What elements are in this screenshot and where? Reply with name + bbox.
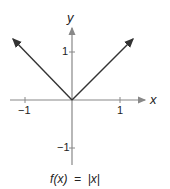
function-caption: f(x) = |x|	[0, 172, 150, 186]
plot-area	[0, 0, 170, 189]
y-axis-label: y	[67, 10, 74, 25]
ytick-1: 1	[62, 45, 68, 57]
xtick-1: 1	[117, 104, 123, 116]
xtick-neg-1: −1	[18, 104, 31, 116]
function-right-branch	[72, 39, 133, 100]
ytick-neg-1: −1	[57, 141, 70, 153]
x-axis-label: x	[150, 92, 157, 107]
